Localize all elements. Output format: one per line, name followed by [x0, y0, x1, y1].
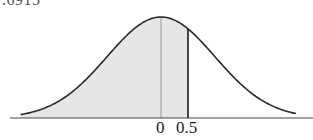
tick-label-half: 0.5: [176, 118, 197, 138]
shaded-area: [21, 17, 188, 118]
tick-label-zero: 0: [156, 118, 165, 138]
